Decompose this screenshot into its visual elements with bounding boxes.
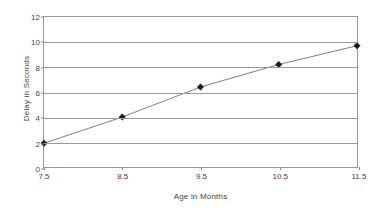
x-tick-mark [44, 167, 45, 170]
y-tick-label: 12 [31, 13, 40, 22]
y-tick-label: 6 [36, 89, 40, 98]
y-tick-mark [41, 42, 44, 43]
x-tick-label: 8.5 [117, 172, 128, 181]
x-tick-label: 7.5 [38, 172, 49, 181]
x-tick-mark [201, 167, 202, 170]
gridline [44, 118, 357, 119]
gridline [44, 42, 357, 43]
line-chart: Delay in Seconds 0246810127.58.59.510.51… [0, 0, 381, 217]
data-point-marker [354, 43, 360, 49]
data-point-marker [197, 84, 203, 90]
y-tick-mark [41, 118, 44, 119]
y-tick-mark [41, 93, 44, 94]
y-tick-label: 8 [36, 63, 40, 72]
y-tick-label: 2 [36, 139, 40, 148]
gridline [44, 67, 357, 68]
series-line [44, 46, 357, 144]
gridline [44, 93, 357, 94]
plot-area: 0246810127.58.59.510.511.5 [43, 16, 358, 168]
y-tick-label: 4 [36, 114, 40, 123]
y-tick-mark [41, 67, 44, 68]
x-tick-mark [122, 167, 123, 170]
y-tick-mark [41, 17, 44, 18]
x-tick-label: 10.5 [272, 172, 288, 181]
x-tick-label: 9.5 [196, 172, 207, 181]
x-tick-label: 11.5 [352, 172, 367, 181]
y-tick-mark [41, 143, 44, 144]
x-tick-mark [359, 167, 360, 170]
gridline [44, 143, 357, 144]
x-tick-mark [280, 167, 281, 170]
x-axis-title: Age in Months [43, 192, 358, 201]
y-axis-title: Delay in Seconds [22, 19, 31, 159]
y-tick-label: 10 [31, 38, 40, 47]
